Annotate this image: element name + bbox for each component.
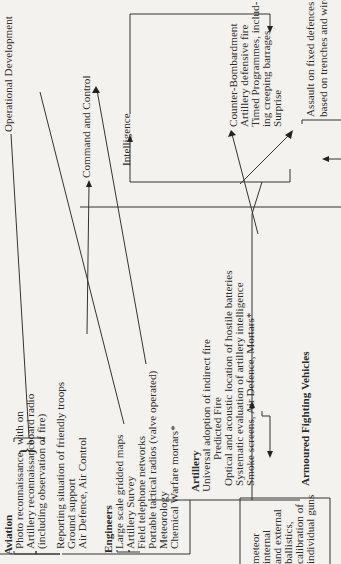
assault-item: based on trenches and wire, — [318, 0, 330, 117]
target-command-and-control: Command and Control — [81, 75, 93, 178]
assault-bracket — [302, 120, 341, 124]
radio-to-opdev-line — [11, 134, 29, 438]
aviation-item: Air Defence, Air Control — [77, 437, 89, 549]
aviation-item: (including observation of fire) — [36, 414, 48, 549]
cross-line-1 — [232, 134, 258, 234]
aviation-brace-glyph: } — [16, 446, 36, 456]
engineers-bracket — [117, 550, 129, 552]
engineers-item: Chemical Warfare mortars* — [169, 425, 181, 549]
counter-bombardment-item: Surprise — [272, 90, 284, 127]
armoured-heading: Armoured Fighting Vehicles — [300, 351, 312, 486]
rotated-diagram-page: Operational Development Command and Cont… — [0, 0, 341, 564]
target-intelligence: Intelligence — [121, 113, 133, 166]
cross-line-2 — [240, 134, 290, 184]
artillery-item: Smoke screens, Air Defence, Mortars* — [245, 313, 257, 486]
assault-item: Assault on fixed defences — [305, 2, 317, 117]
intelligence-feed-line — [130, 169, 290, 182]
meteor-item: individual guns — [305, 495, 317, 564]
aviation-brace-note: board radio — [25, 394, 37, 445]
target-operational-development: Operational Development — [3, 16, 15, 132]
